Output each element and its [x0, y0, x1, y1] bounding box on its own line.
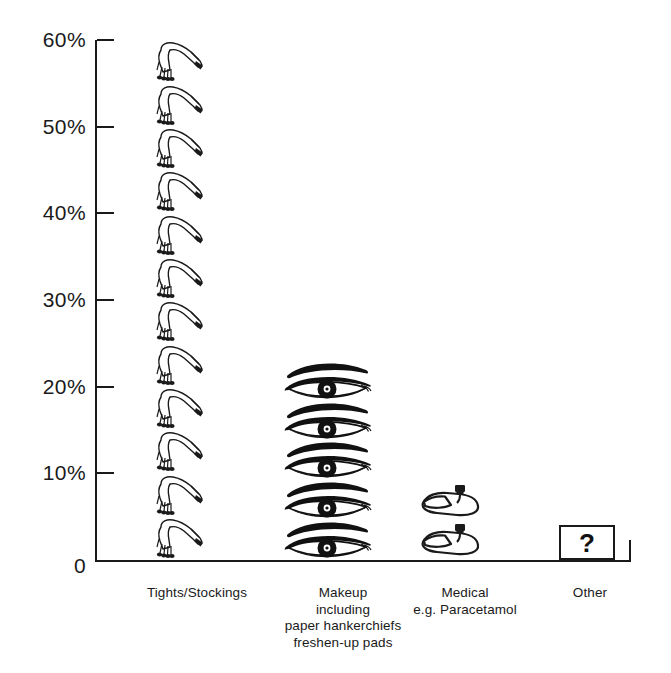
eye-makeup-icon — [282, 480, 374, 521]
tights-legs-icon — [152, 517, 206, 560]
pictogram-chart: 60%50%40%30%20%10%0 — [0, 0, 671, 673]
tights-legs-icon — [152, 214, 206, 257]
tights-legs-icon — [152, 300, 206, 343]
tights-legs-icon — [152, 474, 206, 517]
eye-makeup-icon — [282, 361, 374, 401]
y-axis-tick-label: 50% — [0, 115, 86, 139]
category-label-other: Other — [525, 585, 655, 602]
tights-legs-icon — [152, 127, 206, 170]
tights-legs-icon — [152, 430, 206, 473]
category-label-line: freshen-up pads — [243, 635, 443, 652]
medicine-icon — [415, 521, 487, 560]
tights-legs-icon — [152, 213, 206, 256]
tights-legs-icon — [152, 127, 206, 170]
tights-legs-icon — [152, 170, 206, 213]
y-axis-tick-label: 60% — [0, 28, 86, 52]
tights-legs-icon — [152, 387, 206, 430]
tights-legs-icon — [152, 344, 206, 387]
y-axis-tick-label: 30% — [0, 288, 86, 312]
eye-makeup-icon — [282, 440, 374, 481]
y-axis-tick-label: 40% — [0, 201, 86, 225]
tights-legs-icon — [152, 40, 206, 83]
eye-makeup-icon — [282, 480, 374, 520]
plot-area: ? — [97, 40, 631, 560]
column-tights — [152, 40, 206, 560]
tights-legs-icon — [152, 430, 206, 473]
tights-legs-icon — [152, 170, 206, 213]
medicine-icon — [415, 521, 487, 560]
category-label-line: paper hankerchiefs — [243, 618, 443, 635]
category-label-line: Other — [525, 585, 655, 602]
question-mark-label: ? — [579, 530, 595, 556]
tights-legs-icon — [152, 517, 206, 560]
medicine-icon — [415, 482, 487, 521]
column-other: ? — [559, 525, 615, 560]
tights-legs-icon — [152, 300, 206, 343]
y-axis-tick-label: 0 — [0, 554, 86, 578]
tights-legs-icon — [152, 257, 206, 300]
y-axis-tick-label: 10% — [0, 461, 86, 485]
y-axis-tick-label: 20% — [0, 375, 86, 399]
medicine-icon — [415, 482, 487, 521]
tights-legs-icon — [152, 257, 206, 300]
tights-legs-icon — [152, 40, 206, 83]
tights-legs-icon — [152, 83, 206, 126]
eye-makeup-icon — [282, 401, 374, 441]
eye-makeup-icon — [282, 440, 374, 480]
eye-makeup-icon — [282, 520, 374, 561]
category-label-line: e.g. Paracetamol — [375, 602, 555, 619]
tights-legs-icon — [152, 473, 206, 516]
column-makeup — [282, 361, 374, 560]
tights-legs-icon — [152, 84, 206, 127]
eye-makeup-icon — [282, 401, 374, 442]
tights-legs-icon — [152, 387, 206, 430]
eye-makeup-icon — [282, 361, 374, 402]
column-medical — [415, 482, 487, 560]
tights-legs-icon — [152, 343, 206, 386]
eye-makeup-icon — [282, 520, 374, 560]
